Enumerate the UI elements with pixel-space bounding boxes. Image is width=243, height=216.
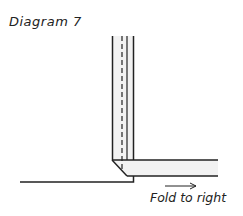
base-line — [20, 176, 134, 182]
fold-caption: Fold to right — [150, 190, 226, 205]
horizontal-strip-fill — [112, 160, 218, 176]
fold-diagram — [0, 0, 243, 216]
